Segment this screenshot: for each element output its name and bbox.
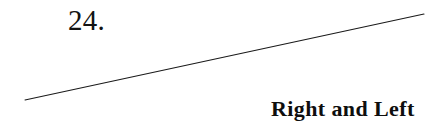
scanned-page-fragment: 24. Right and Left	[0, 0, 446, 131]
section-number: 24.	[68, 6, 105, 35]
section-title: Right and Left	[271, 98, 415, 120]
